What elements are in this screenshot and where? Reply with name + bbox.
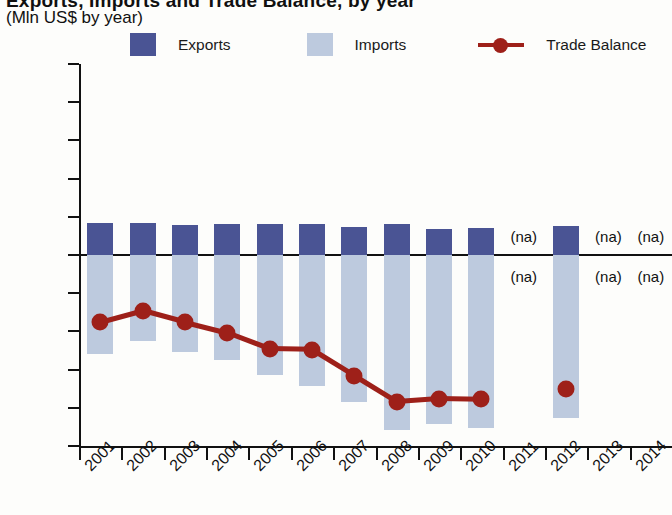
legend-label-imports: Imports — [355, 36, 407, 54]
bar-imports — [87, 255, 113, 354]
trade-balance-point — [346, 367, 363, 384]
legend-label-exports: Exports — [178, 36, 231, 54]
x-axis-tick-label: 2004 — [208, 437, 246, 475]
y-axis-tick — [68, 254, 79, 256]
x-axis-tick-label: 2009 — [420, 437, 458, 475]
zero-baseline — [79, 254, 672, 256]
trade-balance-point — [558, 380, 575, 397]
bar-imports — [130, 255, 156, 341]
na-label-imports: (na) — [595, 268, 622, 285]
bar-exports — [130, 223, 156, 255]
bar-exports — [299, 224, 325, 255]
y-axis-tick — [68, 445, 79, 447]
trade-balance-point — [219, 324, 236, 341]
x-axis-tick-label: 2007 — [335, 437, 373, 475]
x-axis-tick — [460, 446, 462, 460]
na-label-exports: (na) — [637, 228, 664, 245]
legend-line-dot — [493, 38, 508, 53]
y-axis-tick — [68, 139, 79, 141]
legend-swatch-exports — [130, 33, 156, 56]
x-axis-tick-label: 2010 — [462, 437, 500, 475]
x-axis-tick — [587, 446, 589, 460]
x-axis-tick — [248, 446, 250, 460]
bar-exports — [214, 224, 240, 255]
bar-exports — [172, 225, 198, 255]
x-axis-tick — [630, 446, 632, 460]
x-axis-tick-label: 2003 — [166, 437, 204, 475]
trade-balance-point — [303, 341, 320, 358]
trade-balance-point — [176, 314, 193, 331]
legend-item-trade-balance: Trade Balance — [478, 36, 646, 54]
bar-imports — [172, 255, 198, 352]
bar-imports — [299, 255, 325, 386]
na-label-imports: (na) — [510, 268, 537, 285]
x-axis-tick — [121, 446, 123, 460]
x-axis-tick-label: 2014 — [632, 437, 670, 475]
x-axis-tick-label: 2002 — [123, 437, 161, 475]
chart-legend: Exports Imports Trade Balance — [130, 33, 647, 56]
x-axis-tick — [545, 446, 547, 460]
y-axis-tick — [68, 407, 79, 409]
x-axis-tick — [206, 446, 208, 460]
x-axis-tick — [164, 446, 166, 460]
bar-exports — [468, 228, 494, 255]
x-axis-tick — [333, 446, 335, 460]
bar-exports — [87, 223, 113, 255]
y-axis-tick — [68, 216, 79, 218]
trade-balance-point — [473, 391, 490, 408]
x-axis-tick — [418, 446, 420, 460]
bar-exports — [341, 227, 367, 255]
trade-balance-point — [431, 390, 448, 407]
x-axis-tick-label: 2008 — [378, 437, 416, 475]
y-axis-tick — [68, 369, 79, 371]
bar-imports — [214, 255, 240, 360]
x-axis-tick-label: 2013 — [589, 437, 627, 475]
na-label-exports: (na) — [595, 228, 622, 245]
bar-exports — [426, 229, 452, 255]
y-axis-tick — [68, 330, 79, 332]
trade-balance-point — [92, 314, 109, 331]
x-axis-tick-label: 2011 — [505, 438, 542, 475]
y-axis-tick — [68, 101, 79, 103]
chart-subtitle: (Mln US$ by year) — [6, 8, 143, 28]
trade-balance-point — [388, 393, 405, 410]
x-axis-tick-label: 2005 — [250, 437, 288, 475]
legend-label-trade-balance: Trade Balance — [546, 36, 646, 54]
legend-swatch-imports — [307, 33, 333, 56]
bar-exports — [553, 226, 579, 255]
bar-exports — [257, 224, 283, 255]
legend-linemarker-icon — [478, 36, 524, 54]
legend-item-exports: Exports — [130, 33, 231, 56]
trade-balance-point — [261, 340, 278, 357]
bar-exports — [384, 224, 410, 255]
y-axis-tick — [68, 178, 79, 180]
chart-root: Exports, Imports and Trade Balance, by y… — [0, 0, 672, 515]
trade-balance-point — [134, 302, 151, 319]
x-axis-tick-label: 2012 — [547, 437, 585, 475]
na-label-exports: (na) — [510, 228, 537, 245]
na-label-imports: (na) — [637, 268, 664, 285]
plot-area: 250200150100500−50−100−150−200−250200120… — [79, 64, 672, 446]
x-axis-tick-label: 2001 — [81, 437, 119, 475]
x-axis-tick — [376, 446, 378, 460]
x-axis-tick — [503, 446, 505, 460]
y-axis-tick — [68, 63, 79, 65]
x-axis-tick — [79, 446, 81, 460]
x-axis-tick — [291, 446, 293, 460]
y-axis-tick — [68, 292, 79, 294]
x-axis-tick-label: 2006 — [293, 437, 331, 475]
legend-item-imports: Imports — [307, 33, 407, 56]
